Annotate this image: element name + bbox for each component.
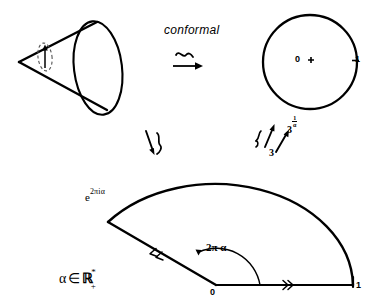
right-wreath-glyph [256,131,261,141]
exponent-denominator: α [292,122,297,128]
exponent-numerator: 1 [292,115,297,122]
sector-slanted-radius [108,222,216,285]
sector-angle-label: 2π α [206,242,226,253]
alpha-condition-label: α∈ℝ*+ [59,270,103,288]
cone-group [19,18,128,117]
disk-center-label: 0 [295,55,300,64]
sector-vertex-label: 0 [210,288,215,297]
map-source-label-three: 3 [269,148,274,158]
left-down-stroke [146,131,153,151]
right-up-arrow-1 [265,128,273,147]
alpha-symbol: α [59,271,66,286]
left-down-arrowhead [149,148,154,155]
conformal-arrow-group [173,53,203,70]
disk-center-plus-mark [308,57,314,63]
arrow-head [195,62,203,70]
figure-canvas: conformal 0 1 3 31α e2πiα 2π α α∈ℝ*+ 0 1 [0,0,374,304]
sector-angle-arc-arrowhead [196,250,202,256]
plus-subscript: + [91,281,96,291]
conformal-label: conformal [164,24,219,36]
membership-symbol: ∈ [68,271,80,286]
right-up-arrow-1-head [270,124,275,132]
sector-group [108,184,353,289]
map-target-label-three-power: 31α [287,120,297,135]
cone-upper-edge [19,22,97,62]
left-wreath-glyph [157,133,161,154]
exponent-fraction: 1α [292,115,297,129]
sector-arc [108,184,353,285]
right-wreath-glyph-2 [256,141,258,147]
right-up-arrow-2 [276,133,287,152]
disk-circle [263,15,357,109]
sector-arc-endpoint-label: e2πiα [85,190,105,203]
sector-radius-label: 1 [356,281,361,290]
cone-lower-edge [19,62,107,110]
tilde-glyph [176,53,193,57]
star-superscript: * [91,267,96,277]
three-power-exponent: 1α [292,121,297,129]
arc-endpoint-exponent: 2πiα [90,187,105,196]
figure-vector-layer [0,0,374,304]
disk-boundary-label: 1 [355,55,360,64]
left-iso-arrow-group [146,131,161,155]
disk-group [263,15,359,109]
